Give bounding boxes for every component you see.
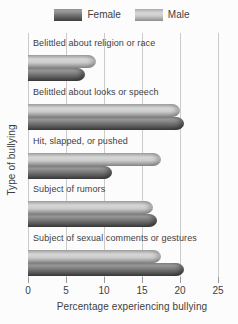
- bar-female: [28, 214, 157, 227]
- x-tick-label: 0: [25, 285, 31, 296]
- x-tick: [218, 277, 219, 283]
- bar-male: [28, 250, 161, 263]
- bar-group: Belittled about religion or race: [28, 33, 236, 82]
- x-tick-label: 20: [174, 285, 185, 296]
- bar-male: [28, 55, 96, 68]
- bar-female: [28, 263, 184, 276]
- x-tick-label: 25: [212, 285, 223, 296]
- x-tick: [104, 277, 105, 283]
- bar-group: Subject of sexual comments or gestures: [28, 228, 236, 277]
- category-label: Belittled about religion or race: [33, 38, 155, 48]
- x-tick: [142, 277, 143, 283]
- category-label: Belittled about looks or speech: [33, 87, 159, 97]
- legend-label-male: Male: [168, 9, 190, 20]
- legend-swatch-female: [54, 9, 82, 21]
- category-label: Subject of rumors: [33, 184, 105, 194]
- bar-group: Hit, slapped, or pushed: [28, 131, 236, 180]
- legend: FemaleMale: [6, 7, 238, 22]
- bar-group: Subject of rumors: [28, 179, 236, 228]
- x-tick: [180, 277, 181, 283]
- bar-male: [28, 153, 161, 166]
- legend-swatch-male: [135, 9, 163, 21]
- bar-female: [28, 117, 184, 130]
- plot-area: Belittled about religion or raceBelittle…: [28, 33, 236, 277]
- bar-female: [28, 166, 112, 179]
- x-axis-title: Percentage experiencing bullying: [28, 301, 236, 312]
- x-tick-label: 15: [136, 285, 147, 296]
- x-tick-label: 10: [98, 285, 109, 296]
- bullying-bar-chart: FemaleMale Type of bullying Belittled ab…: [0, 0, 238, 324]
- category-label: Hit, slapped, or pushed: [33, 136, 128, 146]
- legend-label-female: Female: [87, 9, 120, 20]
- legend-item-female: Female: [54, 9, 120, 21]
- legend-item-male: Male: [135, 9, 190, 21]
- y-axis-title: Type of bullying: [6, 124, 17, 195]
- x-tick: [66, 277, 67, 283]
- bar-group: Belittled about looks or speech: [28, 82, 236, 131]
- bar-male: [28, 104, 180, 117]
- category-label: Subject of sexual comments or gestures: [33, 233, 197, 243]
- bar-female: [28, 68, 85, 81]
- x-tick: [28, 277, 29, 283]
- bar-male: [28, 201, 153, 214]
- x-tick-label: 5: [63, 285, 69, 296]
